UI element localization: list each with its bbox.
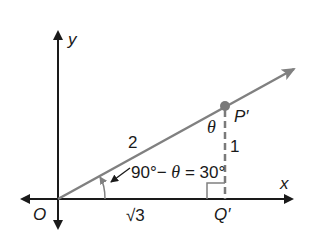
angle-equation-part1: 90°− — [131, 163, 171, 182]
angle-equation-theta: θ — [171, 162, 180, 182]
theta-label: θ — [207, 117, 216, 137]
opposite-side-label: 1 — [230, 137, 239, 156]
hypotenuse-label: 2 — [128, 133, 137, 152]
y-axis-label: y — [67, 30, 78, 49]
origin-label: O — [33, 205, 46, 224]
angle-equation-part2: = 30° — [180, 163, 225, 182]
unit-triangle-diagram: y x O Q′ P′ 2 1 √3 θ 90°− θ = 30° — [0, 0, 309, 234]
angle-equation: 90°− θ = 30° — [131, 162, 225, 182]
angle-arc — [100, 177, 105, 199]
point-p-prime — [220, 101, 230, 111]
x-axis-label: x — [279, 174, 289, 193]
point-p-label: P′ — [234, 107, 249, 126]
point-q-label: Q′ — [214, 205, 231, 224]
angle-pointer-arrow — [111, 168, 130, 182]
right-angle-marker — [207, 183, 225, 199]
adjacent-side-label: √3 — [126, 206, 145, 225]
